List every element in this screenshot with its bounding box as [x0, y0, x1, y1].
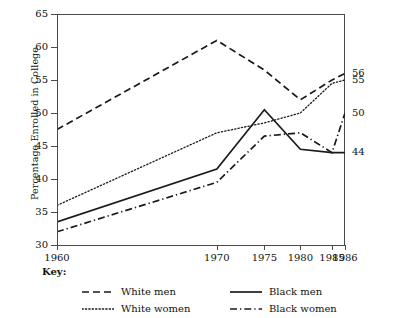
x-tick-label: 1960	[44, 252, 69, 263]
x-tick-label: 1975	[252, 252, 277, 263]
x-tick-label: 1986	[332, 252, 357, 263]
legend-item-black-men: Black men	[230, 283, 378, 300]
legend-item-white-men: White men	[82, 283, 230, 300]
legend-label: Black men	[269, 286, 322, 297]
x-tick	[57, 245, 58, 250]
x-tick-label: 1970	[204, 252, 229, 263]
end-value-label: 50	[352, 107, 365, 118]
x-tick	[217, 245, 218, 250]
x-tick	[332, 245, 333, 250]
y-tick-label: 50	[35, 107, 48, 118]
legend-title: Key:	[42, 266, 66, 277]
plot-area	[57, 14, 345, 245]
legend-swatch-dashed	[82, 287, 114, 297]
legend: White menBlack menWhite womenBlack women	[82, 283, 382, 317]
legend-item-white-women: White women	[82, 300, 230, 317]
chart-figure: Percentage Enrolled in College 303540455…	[0, 0, 405, 318]
x-tick	[345, 245, 346, 250]
x-tick	[264, 245, 265, 250]
y-tick-label: 55	[35, 74, 48, 85]
legend-label: White women	[121, 303, 190, 314]
legend-label: White men	[121, 286, 176, 297]
legend-label: Black women	[269, 303, 337, 314]
y-tick-label: 65	[35, 8, 48, 19]
y-tick-label: 30	[35, 239, 48, 250]
end-value-label: 44	[352, 146, 365, 157]
x-tick-label: 1980	[288, 252, 313, 263]
plot-frame	[57, 14, 345, 245]
legend-swatch-dotted	[82, 304, 114, 314]
legend-swatch-solid	[230, 287, 262, 297]
legend-item-black-women: Black women	[230, 300, 378, 317]
end-value-label: 55	[352, 74, 365, 85]
y-tick-label: 40	[35, 173, 48, 184]
x-axis-line	[57, 245, 345, 246]
y-axis-title: Percentage Enrolled in College	[29, 34, 40, 214]
legend-swatch-dashdot	[230, 304, 262, 314]
y-tick-label: 35	[35, 206, 48, 217]
y-tick-label: 45	[35, 140, 48, 151]
x-tick	[300, 245, 301, 250]
y-tick-label: 60	[35, 41, 48, 52]
